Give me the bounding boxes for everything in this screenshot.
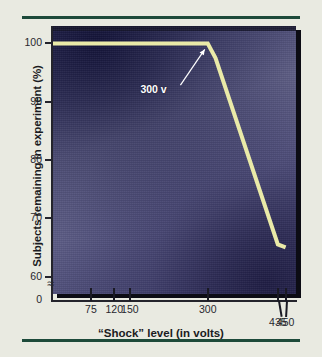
y-tick-mark <box>45 101 52 103</box>
x-tick-mark <box>207 288 209 301</box>
chart-data-layer <box>52 26 296 294</box>
x-tick-mark <box>277 288 279 301</box>
x-axis-line <box>51 300 297 302</box>
y-tick-mark <box>45 217 52 219</box>
x-tick-mark <box>90 288 92 301</box>
x-axis-title: “Shock” level (in volts) <box>0 327 322 339</box>
x-tick-leader-line <box>285 301 287 317</box>
x-tick-mark <box>285 288 287 301</box>
top-divider-rule <box>22 16 300 19</box>
annotation-label-300v: 300 v <box>140 83 166 95</box>
y-tick-mark <box>45 159 52 161</box>
y-axis-break-symbol: ≈ <box>47 276 56 291</box>
x-tick-label: 150 <box>110 303 150 315</box>
annotation-arrow-head <box>200 49 205 55</box>
y-tick-label: 0 <box>10 293 42 305</box>
y-axis-line <box>51 26 53 302</box>
bottom-divider-rule <box>22 339 300 342</box>
y-axis-title: Subjects remaining in experiment (%) <box>31 41 43 291</box>
data-line-subjects-remaining <box>52 43 286 247</box>
x-tick-leader-line <box>278 301 282 317</box>
x-tick-label: 300 <box>188 303 228 315</box>
x-tick-mark <box>129 288 131 301</box>
y-tick-mark <box>45 42 52 44</box>
figure-root: 100908070600 75120150300435450 ≈ Subject… <box>0 0 322 357</box>
x-tick-mark <box>113 288 115 301</box>
annotation-arrow-line <box>180 49 204 85</box>
